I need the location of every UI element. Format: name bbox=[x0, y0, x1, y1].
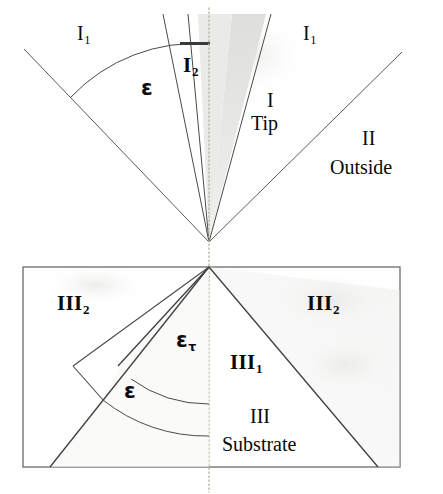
label-II-outside: II bbox=[362, 128, 375, 148]
label-III1: III1 bbox=[230, 352, 263, 373]
label-I2: I2 bbox=[183, 55, 199, 76]
label-outside-word: Outside bbox=[330, 157, 392, 177]
label-I1-right: I1 bbox=[303, 23, 316, 43]
label-epsilon-bottom: ε bbox=[124, 381, 136, 402]
label-III2-left: III2 bbox=[57, 293, 90, 314]
label-tip-word: Tip bbox=[251, 113, 278, 133]
figure-root: I1 I1 I2 ε I Tip II Outside III2 III2 ετ… bbox=[0, 0, 443, 494]
top-arc-end-tick bbox=[180, 42, 210, 45]
label-III2-right: III2 bbox=[307, 293, 340, 314]
label-substrate-word: Substrate bbox=[222, 434, 296, 454]
label-epsilon-tau: ετ bbox=[176, 330, 196, 351]
bottom-wedge-lower bbox=[73, 366, 103, 400]
top-outer-line-left bbox=[24, 49, 209, 242]
label-I1-left: I1 bbox=[77, 23, 90, 43]
label-epsilon-top: ε bbox=[141, 78, 153, 99]
label-I-tip: I bbox=[267, 90, 274, 110]
label-III-substrate: III bbox=[250, 406, 270, 426]
diagram-canvas bbox=[0, 0, 443, 494]
